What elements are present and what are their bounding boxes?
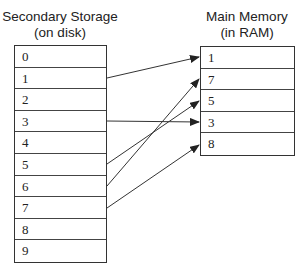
disk-page-0: 0 [15, 46, 106, 68]
main-memory-table: 1 7 5 3 8 [200, 46, 295, 156]
main-memory-title: Main Memory (in RAM) [192, 9, 300, 41]
disk-page-7: 7 [15, 197, 106, 219]
ram-frame-0: 1 [201, 47, 294, 69]
secondary-storage-table: 0 1 2 3 4 5 6 7 8 9 [14, 45, 107, 263]
arrow-page-3-to-frame [107, 121, 199, 122]
disk-page-1: 1 [15, 68, 106, 90]
disk-page-9: 9 [15, 240, 106, 262]
arrow-page-7-to-frame [107, 79, 199, 186]
ram-frame-2: 5 [201, 90, 294, 112]
disk-page-3: 3 [15, 111, 106, 133]
arrow-page-1-to-frame [107, 57, 199, 78]
secondary-storage-title: Secondary Storage (on disk) [0, 9, 120, 41]
arrow-page-8-to-frame [107, 145, 199, 208]
main-memory-title-line2: (in RAM) [192, 25, 300, 41]
disk-page-8: 8 [15, 219, 106, 241]
ram-frame-1: 7 [201, 69, 294, 91]
arrow-page-5-to-frame [107, 101, 199, 164]
ram-frame-3: 3 [201, 112, 294, 134]
ram-frame-4: 8 [201, 133, 294, 155]
secondary-storage-title-line2: (on disk) [0, 25, 120, 41]
disk-page-5: 5 [15, 154, 106, 176]
disk-page-4: 4 [15, 132, 106, 154]
disk-page-6: 6 [15, 176, 106, 198]
secondary-storage-title-line1: Secondary Storage [0, 9, 120, 25]
disk-page-2: 2 [15, 89, 106, 111]
main-memory-title-line1: Main Memory [192, 9, 300, 25]
